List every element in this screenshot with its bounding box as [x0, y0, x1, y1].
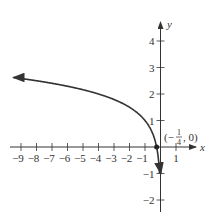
svg-text:3: 3: [149, 62, 155, 74]
svg-text:1: 1: [177, 128, 181, 137]
svg-text:−1: −1: [143, 168, 155, 180]
svg-text:4: 4: [177, 138, 181, 147]
plot-area: −9−8−7−6−5−4−3−2−11−2−11234 x y (− 1 4 ,…: [0, 0, 214, 222]
svg-text:−5: −5: [74, 152, 86, 164]
chart: −9−8−7−6−5−4−3−2−11−2−11234 x y (− 1 4 ,…: [0, 0, 214, 222]
svg-text:−8: −8: [28, 152, 40, 164]
svg-text:−2: −2: [121, 152, 133, 164]
svg-text:−1: −1: [136, 152, 148, 164]
svg-text:−7: −7: [43, 152, 55, 164]
point-annotation: (− 1 4 , 0): [164, 128, 198, 147]
svg-text:1: 1: [149, 115, 155, 127]
svg-text:−3: −3: [105, 152, 117, 164]
svg-text:−4: −4: [90, 152, 102, 164]
svg-text:4: 4: [149, 35, 155, 47]
svg-text:(−: (−: [164, 131, 174, 144]
x-axis-label: x: [199, 141, 205, 153]
y-axis-label: y: [166, 18, 172, 30]
svg-text:2: 2: [149, 88, 155, 100]
ticks: −9−8−7−6−5−4−3−2−11−2−11234: [12, 35, 179, 206]
svg-text:−6: −6: [59, 152, 71, 164]
svg-text:1: 1: [173, 152, 179, 164]
axes: [10, 22, 196, 212]
svg-text:, 0): , 0): [183, 131, 198, 144]
svg-text:−9: −9: [12, 152, 24, 164]
svg-text:−2: −2: [143, 194, 155, 206]
